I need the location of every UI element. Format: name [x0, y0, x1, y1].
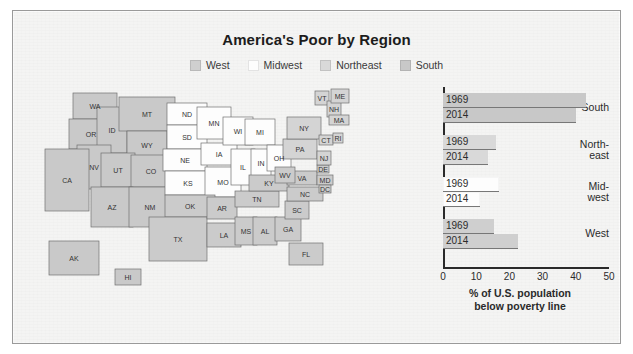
state-label-TX: TX [174, 236, 183, 243]
bar-year-label: 2014 [446, 193, 468, 204]
state-label-OR: OR [86, 131, 97, 138]
state-label-TN: TN [252, 196, 261, 203]
state-label-OK: OK [185, 203, 195, 210]
x-axis-line [443, 267, 609, 269]
map-svg: WAORIDMTWYNVUTCOCAAZNMAKHINDSDNEKSMNIAMO… [31, 83, 383, 303]
us-region-map: WAORIDMTWYNVUTCOCAAZNMAKHINDSDNEKSMNIAMO… [31, 83, 383, 303]
state-label-SC: SC [292, 207, 302, 214]
x-tick-label: 20 [504, 271, 515, 282]
state-label-MO: MO [217, 179, 229, 186]
state-label-PA: PA [296, 146, 305, 153]
legend-label: Northeast [336, 59, 382, 71]
state-label-AR: AR [217, 205, 227, 212]
state-label-AL: AL [261, 228, 270, 235]
state-label-KY: KY [264, 180, 274, 187]
state-label-NH: NH [329, 106, 339, 113]
legend-swatch-icon [320, 60, 331, 71]
bar-northeast-1969: 1969 [443, 135, 609, 150]
legend-label: West [206, 59, 230, 71]
state-label-MD: MD [320, 177, 331, 184]
state-label-OH: OH [274, 155, 285, 162]
state-label-CT: CT [321, 137, 331, 144]
chart-legend: WestMidwestNortheastSouth [13, 59, 620, 71]
state-label-GA: GA [283, 226, 293, 233]
bar-year-label: 1969 [446, 178, 468, 189]
legend-item-midwest: Midwest [248, 59, 303, 71]
plot-area: 19692014196920141969201419692014 [443, 87, 609, 269]
state-label-DC: DC [320, 186, 330, 193]
legend-swatch-icon [190, 60, 201, 71]
bar-baseline-rule [443, 164, 488, 165]
bar-baseline-rule [443, 122, 576, 123]
state-label-MA: MA [334, 117, 345, 124]
bar-northeast-2014: 2014 [443, 150, 609, 165]
state-label-SD: SD [182, 134, 192, 141]
bar-year-label: 1969 [446, 94, 468, 105]
bar-baseline-rule [443, 206, 480, 207]
chart-title: America's Poor by Region [13, 31, 620, 48]
state-label-AZ: AZ [108, 204, 118, 211]
state-label-KS: KS [183, 180, 193, 187]
x-tick-label: 10 [471, 271, 482, 282]
state-label-WY: WY [141, 142, 153, 149]
legend-item-northeast: Northeast [320, 59, 382, 71]
legend-item-south: South [400, 59, 443, 71]
x-tick-label: 40 [570, 271, 581, 282]
state-label-WA: WA [89, 103, 100, 110]
bar-year-label: 2014 [446, 151, 468, 162]
x-axis-caption-line1: % of U.S. population [425, 287, 615, 300]
x-tick-label: 50 [603, 271, 614, 282]
state-label-WV: WV [279, 172, 291, 179]
legend-swatch-icon [400, 60, 411, 71]
figure-panel: America's Poor by Region WestMidwestNort… [12, 10, 621, 344]
state-label-MS: MS [241, 228, 252, 235]
state-label-VT: VT [318, 95, 328, 102]
x-axis-caption: % of U.S. population below poverty line [425, 287, 615, 313]
state-label-NM: NM [145, 204, 156, 211]
state-label-NV: NV [89, 164, 99, 171]
bar-year-label: 2014 [446, 109, 468, 120]
state-label-LA: LA [220, 232, 229, 239]
bar-year-label: 1969 [446, 220, 468, 231]
x-tick-label: 30 [537, 271, 548, 282]
state-label-NY: NY [299, 125, 309, 132]
legend-swatch-icon [248, 60, 259, 71]
state-label-IL: IL [240, 164, 246, 171]
bar-baseline-rule [443, 191, 499, 192]
state-label-CA: CA [62, 177, 72, 184]
bar-west-1969: 1969 [443, 219, 609, 234]
state-label-IA: IA [216, 151, 223, 158]
state-label-ND: ND [182, 111, 192, 118]
state-label-UT: UT [113, 167, 123, 174]
state-label-ID: ID [109, 127, 116, 134]
bar-midwest-2014: 2014 [443, 192, 609, 207]
bar-chart: SouthNorth-eastMid-westWest 196920141969… [391, 87, 609, 327]
bar-baseline-rule [443, 248, 518, 249]
x-axis-caption-line2: below poverty line [425, 300, 615, 313]
legend-item-west: West [190, 59, 230, 71]
state-label-DE: DE [318, 166, 328, 173]
state-label-FL: FL [302, 251, 310, 258]
bar-west-2014: 2014 [443, 234, 609, 249]
x-axis-ticks: 01020304050 [443, 271, 609, 285]
state-label-MN: MN [209, 120, 220, 127]
bar-baseline-rule [443, 233, 494, 234]
bar-baseline-rule [443, 107, 586, 108]
state-label-CO: CO [146, 168, 157, 175]
state-label-HI: HI [125, 274, 132, 281]
state-label-NE: NE [180, 157, 190, 164]
state-label-MT: MT [142, 111, 153, 118]
bar-baseline-rule [443, 149, 496, 150]
state-label-WI: WI [234, 128, 243, 135]
bar-year-label: 2014 [446, 235, 468, 246]
bar-midwest-1969: 1969 [443, 177, 609, 192]
state-label-NJ: NJ [320, 155, 329, 162]
legend-label: South [416, 59, 443, 71]
x-tick-label: 0 [440, 271, 446, 282]
state-label-RI: RI [335, 135, 342, 142]
bar-south-1969: 1969 [443, 93, 609, 108]
legend-label: Midwest [264, 59, 303, 71]
state-label-MI: MI [256, 129, 264, 136]
state-label-VA: VA [298, 175, 307, 182]
state-label-IN: IN [258, 160, 265, 167]
